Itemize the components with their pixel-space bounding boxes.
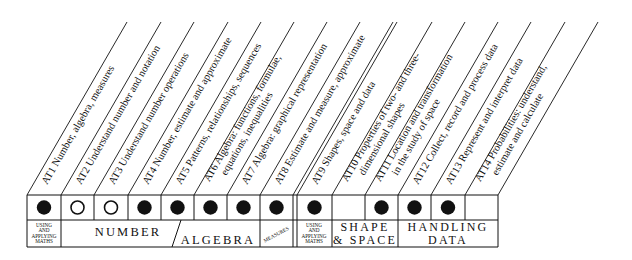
filled-circle-icon bbox=[441, 200, 455, 214]
group-label: ALGEBRA bbox=[181, 233, 255, 247]
filled-circle-icon bbox=[374, 200, 388, 214]
filled-circle-icon bbox=[307, 200, 321, 214]
group-label: MATHS bbox=[305, 238, 323, 244]
open-circle-icon bbox=[71, 201, 84, 214]
group-using-applying-2: USINGANDAPPLYINGMATHS bbox=[301, 222, 326, 245]
group-label: DATA bbox=[428, 233, 468, 247]
group-label: & SPACE bbox=[333, 233, 397, 247]
filled-circle-icon bbox=[137, 200, 151, 214]
filled-circle-icon bbox=[203, 200, 217, 214]
group-label: NUMBER bbox=[95, 225, 162, 239]
group-handling-data: HANDLINGDATA bbox=[408, 220, 489, 247]
filled-circle-icon bbox=[407, 200, 421, 214]
group-label: MEASURES bbox=[262, 225, 289, 243]
group-shape-space: SHAPE& SPACE bbox=[333, 220, 397, 247]
filled-circle-icon bbox=[269, 200, 283, 214]
attainment-target-diagram: AT1 Number, algebra, measuresAT2 Underst… bbox=[0, 0, 632, 260]
group-label: SHAPE bbox=[340, 220, 389, 234]
group-measures: MEASURES bbox=[262, 225, 289, 243]
open-circle-icon bbox=[105, 201, 118, 214]
filled-circle-icon bbox=[236, 200, 250, 214]
group-algebra: ALGEBRA bbox=[181, 233, 255, 247]
filled-circle-icon bbox=[170, 200, 184, 214]
group-divider-slant bbox=[172, 220, 181, 247]
group-number: NUMBER bbox=[95, 225, 162, 239]
group-label: MATHS bbox=[35, 238, 53, 244]
filled-circle-icon bbox=[37, 200, 51, 214]
group-label: HANDLING bbox=[408, 220, 489, 234]
group-using-applying-1: USINGANDAPPLYINGMATHS bbox=[31, 222, 56, 245]
